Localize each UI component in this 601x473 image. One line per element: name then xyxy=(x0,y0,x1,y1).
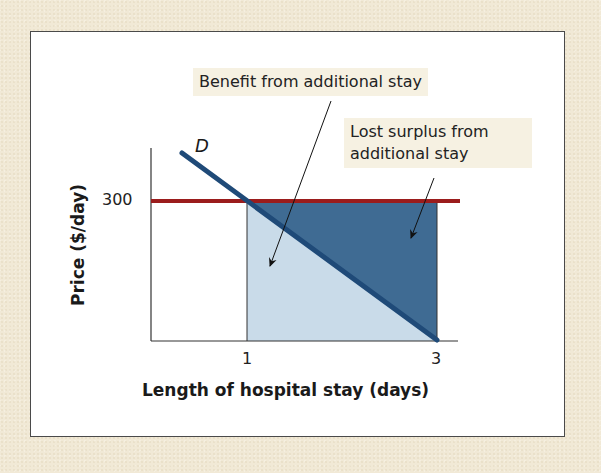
y-tick-300: 300 xyxy=(102,190,133,209)
x-axis-title: Length of hospital stay (days) xyxy=(142,380,429,400)
x-tick-1: 1 xyxy=(242,349,252,368)
x-tick-3: 3 xyxy=(431,349,441,368)
y-axis-title: Price ($/day) xyxy=(68,184,88,306)
lost-surplus-callout: Lost surplus from additional stay xyxy=(344,118,532,168)
demand-curve-label: D xyxy=(195,135,209,156)
benefit-callout: Benefit from additional stay xyxy=(193,68,428,96)
